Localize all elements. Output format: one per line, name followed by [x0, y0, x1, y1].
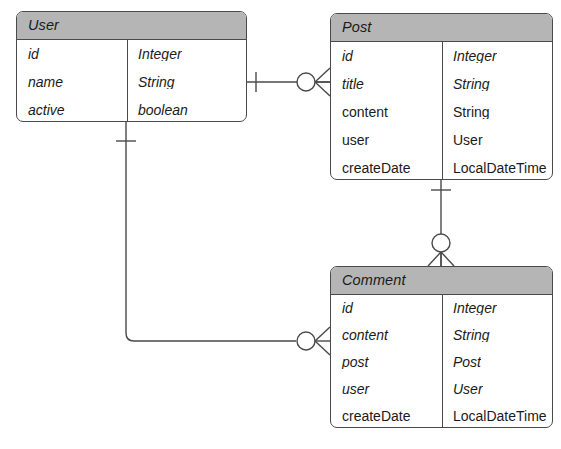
table-row[interactable]: id Integer: [17, 40, 246, 68]
entity-post-title: Post: [331, 14, 552, 42]
diagram-canvas: User id Integer name String active boole…: [0, 0, 561, 449]
field-type: LocalDateTime: [442, 409, 547, 423]
field-name: id: [17, 47, 127, 61]
field-name: title: [331, 77, 442, 91]
field-name: content: [331, 328, 442, 342]
field-type: String: [442, 105, 490, 119]
field-name: active: [17, 103, 127, 117]
cardinality-many-crowsfoot-user-post: [315, 68, 330, 96]
entity-user-title: User: [17, 12, 246, 40]
field-type: User: [442, 382, 483, 396]
field-type: String: [442, 328, 490, 342]
entity-comment-column-divider: [442, 295, 443, 429]
relationship-user-comment: [116, 122, 330, 355]
field-name: user: [331, 382, 442, 396]
cardinality-zero-circle-user-comment: [297, 332, 315, 350]
field-type: LocalDateTime: [442, 161, 547, 175]
entity-post-column-divider: [442, 42, 443, 181]
table-row[interactable]: name String: [17, 68, 246, 96]
entity-comment-title: Comment: [331, 267, 552, 295]
table-row[interactable]: active boolean: [17, 96, 246, 123]
entity-post-fields: id Integer title String content String u…: [331, 42, 552, 181]
entity-user-fields: id Integer name String active boolean: [17, 40, 246, 123]
field-type: Integer: [442, 49, 497, 63]
field-name: createDate: [331, 409, 442, 423]
field-type: Post: [442, 355, 481, 369]
field-type: String: [127, 75, 175, 89]
field-name: id: [331, 301, 442, 315]
entity-comment[interactable]: Comment id Integer content String post P…: [330, 266, 553, 428]
relationship-post-comment: [428, 180, 454, 266]
connector-line-user-comment: [126, 122, 296, 341]
field-type: Integer: [442, 301, 497, 315]
field-name: createDate: [331, 161, 442, 175]
entity-post[interactable]: Post id Integer title String content Str…: [330, 13, 553, 180]
entity-user[interactable]: User id Integer name String active boole…: [16, 11, 247, 122]
field-type: boolean: [127, 103, 188, 117]
field-name: id: [331, 49, 442, 63]
cardinality-zero-circle-user-post: [297, 73, 315, 91]
entity-user-column-divider: [127, 40, 128, 123]
cardinality-many-crowsfoot-user-comment: [315, 327, 330, 355]
field-name: user: [331, 133, 442, 147]
field-name: name: [17, 75, 127, 89]
field-name: content: [331, 105, 442, 119]
relationship-user-post: [247, 68, 330, 96]
cardinality-many-crowsfoot-post-comment: [428, 252, 454, 266]
cardinality-zero-circle-post-comment: [432, 234, 450, 252]
field-type: Integer: [127, 47, 182, 61]
field-type: String: [442, 77, 490, 91]
field-name: post: [331, 355, 442, 369]
entity-comment-fields: id Integer content String post Post user…: [331, 295, 552, 429]
field-type: User: [442, 133, 483, 147]
